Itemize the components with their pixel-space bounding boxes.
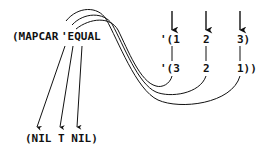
feed-curves <box>66 9 240 104</box>
arrow-to-result-3 <box>77 46 82 127</box>
arrow-to-result-2 <box>60 46 73 127</box>
pairing-lines <box>172 46 240 61</box>
function-equal: 'EQUAL <box>61 31 101 43</box>
list2-item-1: '(3 <box>160 63 180 75</box>
input-arrows <box>172 11 240 30</box>
curve-pair-2 <box>72 15 206 94</box>
output-arrows <box>37 46 82 127</box>
list2-item-3: 1)) <box>237 63 257 75</box>
list2-item-2: 2 <box>203 63 210 75</box>
arrow-to-result-1 <box>37 46 65 127</box>
list1-item-3: 3) <box>237 34 250 46</box>
list1-item-1: '(1 <box>160 34 180 46</box>
result-list: (NIL T NIL) <box>25 133 98 145</box>
mapcar-head: (MAPCAR <box>12 31 58 43</box>
list1-item-2: 2 <box>203 34 210 46</box>
